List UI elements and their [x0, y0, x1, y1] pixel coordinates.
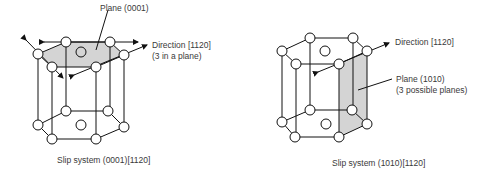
basal-caption: Slip system (0001)[1120]: [57, 155, 150, 165]
prismatic-direction-label: Direction [1120]: [395, 37, 454, 47]
prismatic-plane-note: (3 possible planes): [396, 85, 467, 95]
basal-plane-label: Plane (0001): [100, 3, 149, 13]
hcp-cell-basal: [26, 10, 147, 144]
hcp-cell-prismatic: [277, 33, 392, 142]
prismatic-caption: Slip system (1010)[1120]: [332, 158, 425, 168]
basal-direction-note: (3 in a plane): [152, 51, 202, 61]
basal-direction-label: Direction [1120]: [152, 40, 211, 50]
prismatic-plane-label: Plane (1010): [396, 74, 445, 84]
